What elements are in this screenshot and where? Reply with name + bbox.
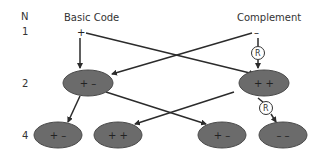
node-gen2-right-label: + + xyxy=(254,78,274,89)
row-label-1: 1 xyxy=(22,26,28,37)
node-gen4-2: + + xyxy=(94,122,142,148)
basic-sign: + xyxy=(77,27,85,38)
arrow-left-to-g4-1 xyxy=(68,96,80,122)
arrow-left-to-g4-3 xyxy=(106,92,206,124)
complement-header: Complement xyxy=(237,12,301,23)
row-label-2: 2 xyxy=(22,78,28,89)
node-gen4-1: + – xyxy=(34,122,82,148)
node-gen4-4: – – xyxy=(259,122,307,148)
node-gen4-2-label: + + xyxy=(108,130,128,141)
node-gen4-1-label: + – xyxy=(50,130,67,141)
node-gen4-4-label: – – xyxy=(276,130,289,141)
row-label-4: 4 xyxy=(22,130,28,141)
complement-sign: – xyxy=(254,27,259,38)
basic-code-header: Basic Code xyxy=(64,12,119,23)
node-gen2-left: + – xyxy=(63,70,113,96)
node-gen4-3-label: + – xyxy=(214,130,231,141)
node-gen4-3: + – xyxy=(198,122,246,148)
node-gen2-right: + + xyxy=(239,70,289,96)
arrow-right-to-g4-2 xyxy=(135,92,234,124)
arrow-right-to-g4-4 xyxy=(271,114,276,122)
n-header: N xyxy=(21,11,28,22)
reverse-marker-lower-label: R xyxy=(263,104,269,113)
reverse-marker-top-label: R xyxy=(255,49,261,58)
node-gen2-left-label: + – xyxy=(80,78,97,89)
code-tree-diagram: N 1 2 4 Basic Code Complement + – R R + … xyxy=(0,0,321,156)
